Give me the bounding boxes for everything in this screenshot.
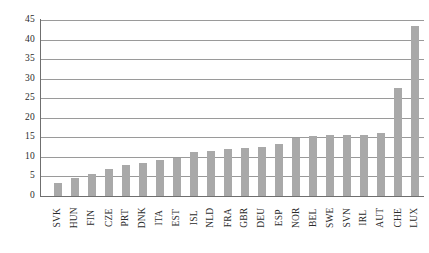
bar-slot	[339, 20, 356, 196]
x-axis-tick-label: IRL	[356, 199, 373, 251]
x-axis-tick-label-text: HUN	[70, 207, 80, 228]
x-axis-tick-label-text: FRA	[223, 208, 233, 227]
bar-slot	[135, 20, 152, 196]
x-axis-tick-label-text: BEL	[309, 208, 319, 227]
x-axis-tick-label-text: ITA	[155, 210, 165, 226]
bar-slot	[254, 20, 271, 196]
bar	[122, 165, 130, 196]
x-axis-tick-label: ITA	[152, 199, 169, 251]
x-axis-tick-label-text: SWE	[326, 207, 336, 228]
y-axis-tick-label: 25	[25, 93, 35, 103]
x-axis-tick-label-text: CHE	[394, 208, 404, 228]
x-axis-tick-label-text: IRL	[360, 210, 370, 226]
x-axis-tick-label-text: EST	[172, 209, 182, 227]
x-axis-tick-label-text: PRT	[121, 209, 131, 226]
bar	[360, 135, 368, 196]
x-axis-tick-label: PRT	[117, 199, 134, 251]
x-axis-tick-label: SVN	[339, 199, 356, 251]
bar-slot	[237, 20, 254, 196]
x-axis-tick-label: DEU	[254, 199, 271, 251]
y-axis-tick-labels: 051015202530354045	[0, 0, 40, 253]
y-axis-tick-label: 10	[25, 152, 35, 162]
x-axis-tick-label: SWE	[322, 199, 339, 251]
bar-slot	[271, 20, 288, 196]
bar-slot	[288, 20, 305, 196]
x-axis-tick-label: SVK	[49, 199, 66, 251]
bar-slot	[100, 20, 117, 196]
bar	[326, 135, 334, 196]
bar	[105, 169, 113, 196]
bar	[394, 88, 402, 196]
x-axis-tick-label-text: FIN	[87, 210, 97, 226]
y-axis-tick-label: 45	[25, 15, 35, 25]
y-axis-tick-label: 35	[25, 54, 35, 64]
bar	[71, 178, 79, 196]
bar	[54, 183, 62, 196]
bar	[224, 149, 232, 196]
x-axis-tick-label-text: NLD	[206, 208, 216, 228]
bar-slot	[203, 20, 220, 196]
bar-slot	[66, 20, 83, 196]
plot-area	[40, 20, 424, 196]
x-axis-tick-label-text: LUX	[411, 208, 421, 228]
y-axis-tick-label: 5	[30, 172, 35, 182]
bar-slot	[390, 20, 407, 196]
y-axis-tick-label: 15	[25, 133, 35, 143]
x-axis-tick-label-text: GBR	[240, 208, 250, 228]
bar-slot	[117, 20, 134, 196]
bar-chart-figure: 051015202530354045 SVKHUNFINCZEPRTDNKITA…	[0, 0, 429, 253]
bar-slot	[407, 20, 424, 196]
bar-slot	[169, 20, 186, 196]
x-axis-tick-label: NOR	[288, 199, 305, 251]
bar	[207, 151, 215, 196]
x-axis-tick-label: FIN	[83, 199, 100, 251]
bar	[309, 136, 317, 196]
bar	[88, 174, 96, 196]
x-axis-tick-label: HUN	[66, 199, 83, 251]
x-axis-baseline	[40, 196, 424, 197]
x-axis-tick-label: AUT	[373, 199, 390, 251]
x-axis-tick-label: ESP	[271, 199, 288, 251]
bar	[190, 152, 198, 196]
bar-slot	[49, 20, 66, 196]
y-axis-line	[40, 19, 41, 197]
bar	[156, 160, 164, 196]
x-axis-tick-label: BEL	[305, 199, 322, 251]
x-axis-tick-label-text: SVN	[343, 208, 353, 228]
bar	[292, 138, 300, 196]
x-axis-tick-label: LUX	[407, 199, 424, 251]
x-axis-tick-label-text: AUT	[377, 208, 387, 228]
bar-slot	[220, 20, 237, 196]
bar	[241, 148, 249, 196]
x-axis-tick-label: CHE	[390, 199, 407, 251]
x-axis-tick-label-text: NOR	[292, 207, 302, 228]
x-axis-tick-label-text: SVK	[53, 208, 63, 228]
y-axis-tick-label: 0	[30, 191, 35, 201]
bar	[173, 158, 181, 196]
y-axis-tick-label: 30	[25, 74, 35, 84]
x-axis-tick-labels: SVKHUNFINCZEPRTDNKITAESTISLNLDFRAGBRDEUE…	[40, 199, 424, 253]
bar	[377, 133, 385, 196]
bar-slot	[322, 20, 339, 196]
bar	[139, 163, 147, 196]
bar-slot	[356, 20, 373, 196]
bars-group	[40, 20, 424, 196]
bar-slot	[305, 20, 322, 196]
bar	[275, 144, 283, 196]
bar-slot	[83, 20, 100, 196]
bar-slot	[186, 20, 203, 196]
bar-slot	[152, 20, 169, 196]
y-axis-tick-label: 20	[25, 113, 35, 123]
x-axis-tick-label: GBR	[237, 199, 254, 251]
x-axis-tick-label-text: CZE	[104, 208, 114, 227]
bar-slot	[373, 20, 390, 196]
x-axis-tick-label: FRA	[220, 199, 237, 251]
x-axis-tick-label-text: DEU	[257, 208, 267, 228]
x-axis-tick-label-text: ESP	[274, 209, 284, 226]
bar	[258, 147, 266, 196]
x-axis-tick-label-text: ISL	[189, 210, 199, 225]
x-axis-tick-label: DNK	[135, 199, 152, 251]
x-axis-tick-label: EST	[169, 199, 186, 251]
x-axis-tick-label: ISL	[186, 199, 203, 251]
x-axis-tick-label: NLD	[203, 199, 220, 251]
